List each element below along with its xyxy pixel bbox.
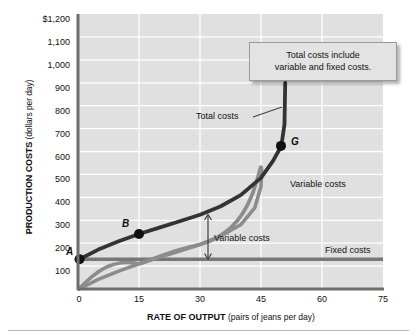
- x-tick-15: 15: [124, 294, 154, 304]
- x-axis-title-units: (pairs of jeans per day): [228, 312, 315, 322]
- x-axis-title: RATE OF OUTPUT (pairs of jeans per day): [78, 312, 384, 322]
- x-tick-0: 0: [64, 294, 94, 304]
- production-costs-chart-figure: $1,200 1,100 1,000 900 800 700 600 500 4…: [0, 0, 417, 336]
- callout-line-1: Total costs include: [254, 49, 392, 61]
- total-costs-label: Total costs: [196, 111, 239, 121]
- data-point-g-marker: [276, 141, 286, 151]
- bottom-divider: [8, 330, 409, 331]
- x-tick-45: 45: [246, 294, 276, 304]
- callout-box: Total costs include variable and fixed c…: [249, 42, 397, 81]
- y-axis-title-units: (dollars per day): [24, 80, 34, 140]
- x-axis-title-main: RATE OF OUTPUT: [147, 312, 225, 322]
- data-point-g-label: G: [291, 136, 299, 147]
- x-tick-30: 30: [185, 294, 215, 304]
- fixed-costs-label: Fixed costs: [325, 245, 371, 255]
- y-axis-title: PRODUCTION COSTS (dollars per day): [24, 32, 34, 282]
- data-point-b-label: B: [122, 218, 129, 229]
- y-tick-1200: $1,200: [26, 14, 70, 24]
- callout-line-2: variable and fixed costs.: [254, 61, 392, 73]
- x-tick-60: 60: [307, 294, 337, 304]
- variable-costs-curve-label: Variable costs: [290, 179, 346, 189]
- x-tick-75: 75: [368, 294, 398, 304]
- data-point-b-marker: [134, 229, 144, 239]
- data-point-a-label: A: [66, 246, 73, 257]
- variable-costs-gap-label: Variable costs: [214, 233, 270, 243]
- y-axis-title-main: PRODUCTION COSTS: [24, 142, 34, 234]
